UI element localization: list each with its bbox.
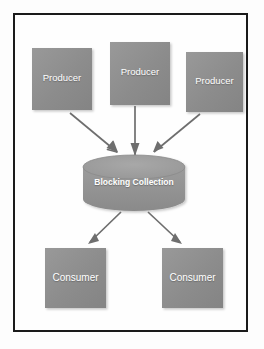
diagram-graphics (0, 0, 264, 349)
arrow-producer3-to-collection (153, 114, 200, 152)
producer-box-3[interactable] (186, 52, 243, 112)
consumer-box-1[interactable] (45, 248, 106, 308)
arrow-collection-to-consumer2 (148, 212, 182, 244)
blocking-collection-cylinder[interactable] (83, 155, 185, 211)
arrow-producer1-to-collection (70, 113, 117, 152)
consumer-box-2[interactable] (162, 248, 223, 308)
arrow-producer2-to-collection (131, 106, 140, 156)
arrow-collection-to-consumer1 (88, 212, 121, 244)
producer-box-1[interactable] (32, 48, 92, 110)
producer-box-2[interactable] (110, 42, 170, 105)
diagram-canvas: Producer Producer Producer Blocking Coll… (0, 0, 264, 349)
